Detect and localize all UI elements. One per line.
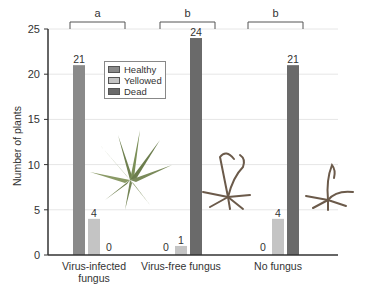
bar-value-label: 0 <box>163 241 169 253</box>
significance-bracket <box>160 22 215 29</box>
significance-letter: a <box>94 7 101 19</box>
legend-item-dead: Dead <box>108 86 162 97</box>
significance-bracket <box>70 22 125 29</box>
significance-brackets: abb <box>70 7 303 29</box>
y-tick-label: 20 <box>28 68 40 80</box>
legend-swatch <box>108 88 120 95</box>
bar-dead <box>287 65 299 255</box>
bar-value-label: 21 <box>287 53 299 65</box>
y-axis-label: Number of plants <box>11 101 23 191</box>
dead-plant-icon <box>203 153 250 209</box>
legend-label: Healthy <box>124 64 156 75</box>
bar-healthy <box>73 65 85 255</box>
significance-letter: b <box>272 7 278 19</box>
bar-value-label: 24 <box>190 26 202 38</box>
significance-bracket <box>248 22 303 29</box>
x-category-label: Virus-infected <box>62 260 126 272</box>
legend-label: Dead <box>124 86 147 97</box>
legend-item-yellowed: Yellowed <box>108 75 162 86</box>
y-tick-label: 5 <box>34 204 40 216</box>
x-category-label: No fungus <box>254 260 302 272</box>
y-tick-label: 15 <box>28 113 40 125</box>
significance-letter: b <box>184 7 190 19</box>
y-tick-label: 25 <box>28 23 40 35</box>
healthy-plant-icon <box>90 130 172 210</box>
legend: Healthy Yellowed Dead <box>104 61 166 99</box>
bar-value-label: 0 <box>106 241 112 253</box>
dead-plant-icon <box>306 165 353 210</box>
legend-swatch <box>108 66 120 73</box>
bar-value-label: 0 <box>260 241 266 253</box>
bar-yellowed <box>272 219 284 255</box>
y-tick-label: 10 <box>28 159 40 171</box>
bar-dead <box>190 38 202 255</box>
legend-swatch <box>108 77 120 84</box>
y-tick-label: 0 <box>34 249 40 261</box>
bar-value-label: 21 <box>73 53 85 65</box>
bar-value-label: 1 <box>178 234 184 246</box>
legend-label: Yellowed <box>124 75 162 86</box>
x-category-label: fungus <box>78 272 110 284</box>
legend-item-healthy: Healthy <box>108 64 162 75</box>
bar-chart: 214001240421 0510152025Virus-infectedfun… <box>0 0 365 291</box>
x-category-label: Virus-free fungus <box>141 260 221 272</box>
bar-value-label: 4 <box>275 207 281 219</box>
bar-yellowed <box>175 246 187 255</box>
plant-illustrations <box>90 130 353 210</box>
bar-yellowed <box>88 219 100 255</box>
bar-value-label: 4 <box>91 207 97 219</box>
